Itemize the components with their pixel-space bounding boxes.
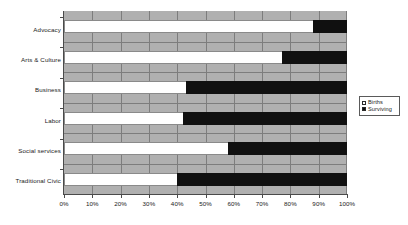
bar-segment-surviving [183, 112, 347, 125]
x-axis-label-50: 50% [199, 200, 212, 207]
bar-segment-births [64, 51, 282, 64]
category-label-arts-culture: Arts & Culture [21, 57, 61, 63]
category-label-business: Business [35, 87, 61, 93]
bar-row-traditional-civic [64, 173, 347, 186]
x-axis-label-20: 20% [114, 200, 127, 207]
category-label-traditional-civic: Traditional Civic [16, 178, 61, 184]
x-axis-tick [149, 194, 150, 198]
bar-row-social-services [64, 142, 347, 155]
bar-segment-surviving [282, 51, 347, 64]
band-separator [64, 42, 347, 43]
bar-row-labor [64, 112, 347, 125]
x-axis-tick [347, 194, 348, 198]
x-axis-label-30: 30% [143, 200, 156, 207]
stacked-bar-chart: Advocacy Arts & Culture Business Labor S… [0, 0, 408, 225]
x-axis-tick [206, 194, 207, 198]
filled-square-icon [362, 107, 366, 111]
legend-label-births: Births [368, 100, 383, 106]
legend-item-births: Births [362, 100, 397, 106]
x-axis-label-60: 60% [227, 200, 240, 207]
legend-item-surviving: Surviving [362, 107, 397, 113]
bar-segment-surviving [228, 142, 347, 155]
chart-legend: Births Surviving [359, 96, 400, 116]
bar-segment-births [64, 112, 183, 125]
x-axis-label-80: 80% [284, 200, 297, 207]
band-separator [64, 72, 347, 73]
band-separator [64, 164, 347, 165]
x-axis-tick [319, 194, 320, 198]
x-axis-tick [64, 194, 65, 198]
x-axis-tick [290, 194, 291, 198]
category-label-social-services: Social services [18, 148, 61, 154]
band-separator [64, 103, 347, 104]
bar-row-advocacy [64, 20, 347, 33]
y-axis-line [63, 11, 64, 194]
bar-segment-births [64, 142, 228, 155]
x-axis-label-0: 0% [59, 200, 68, 207]
x-axis-label-10: 10% [86, 200, 99, 207]
x-axis-tick [92, 194, 93, 198]
x-axis-tick [234, 194, 235, 198]
bar-segment-births [64, 81, 186, 94]
hollow-square-icon [362, 101, 366, 105]
bar-segment-surviving [177, 173, 347, 186]
band-separator [64, 133, 347, 134]
plot-area [64, 11, 347, 194]
bar-row-business [64, 81, 347, 94]
x-axis-tick [177, 194, 178, 198]
category-label-advocacy: Advocacy [33, 27, 61, 33]
bar-segment-surviving [186, 81, 347, 94]
x-axis-label-100: 100% [339, 200, 355, 207]
x-axis-label-90: 90% [312, 200, 325, 207]
x-axis-tick [121, 194, 122, 198]
x-axis-label-70: 70% [256, 200, 269, 207]
category-label-labor: Labor [45, 118, 61, 124]
bar-row-arts-culture [64, 51, 347, 64]
legend-label-surviving: Surviving [368, 107, 392, 113]
x-axis-label-40: 40% [171, 200, 184, 207]
bar-segment-births [64, 20, 313, 33]
x-axis-tick [262, 194, 263, 198]
bar-segment-births [64, 173, 177, 186]
bar-segment-surviving [313, 20, 347, 33]
